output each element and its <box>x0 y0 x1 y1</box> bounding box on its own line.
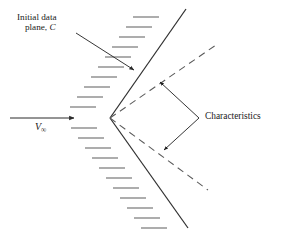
initial-data-leader-line <box>76 33 134 70</box>
initial-data-plane-label-line2-prefix: plane, <box>25 22 50 32</box>
characteristic-line-upper <box>110 45 216 118</box>
initial-data-plane-label: Initial data plane, C <box>17 12 57 33</box>
characteristics-leader-lower <box>164 118 199 150</box>
initial-data-plane-curve-symbol: C <box>49 22 55 32</box>
hatch-marks-upper <box>70 17 159 107</box>
wedge-characteristics-figure: Initial data plane, C Characteristics V∞ <box>0 0 283 234</box>
characteristics-leader-upper <box>160 82 199 118</box>
wedge-upper-surface <box>110 9 186 118</box>
characteristics-label: Characteristics <box>205 111 261 122</box>
initial-data-plane-label-line2: plane, C <box>17 22 57 32</box>
initial-data-plane-label-line1: Initial data <box>17 12 57 22</box>
freestream-velocity-label: V∞ <box>35 121 47 134</box>
characteristic-line-lower <box>110 118 208 190</box>
wedge-lower-surface <box>110 118 188 228</box>
freestream-velocity-subscript: ∞ <box>41 125 46 134</box>
